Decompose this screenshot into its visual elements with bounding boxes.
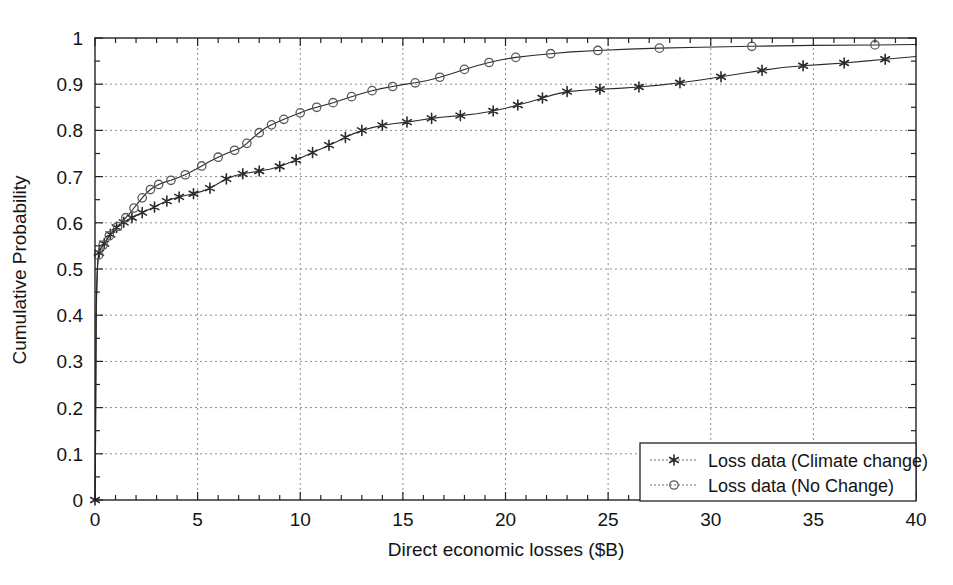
legend-item-label: Loss data (No Change)	[708, 476, 894, 496]
y-axis-tick-labels: 00.10.20.30.40.50.60.70.80.91	[57, 28, 84, 511]
x-tick-label: 5	[192, 509, 203, 530]
chart-legend: Loss data (Climate change)Loss data (No …	[640, 443, 928, 501]
x-tick-label: 20	[495, 509, 516, 530]
x-tick-label: 40	[905, 509, 926, 530]
y-tick-label: 0	[72, 490, 83, 511]
x-tick-label: 25	[598, 509, 619, 530]
marker-star	[222, 174, 231, 184]
data-series-layer	[91, 41, 916, 505]
y-tick-label: 0.9	[57, 74, 83, 95]
figure-container: 0510152025303540 00.10.20.30.40.50.60.70…	[0, 0, 953, 585]
marker-star	[308, 148, 317, 158]
x-tick-label: 15	[392, 509, 413, 530]
x-tick-label: 10	[290, 509, 311, 530]
y-tick-label: 0.2	[57, 398, 83, 419]
y-tick-label: 1	[72, 28, 83, 49]
y-tick-label: 0.7	[57, 167, 83, 188]
marker-star	[292, 155, 301, 165]
marker-star	[189, 189, 198, 199]
marker-star	[341, 132, 350, 142]
marker-star	[138, 208, 147, 218]
grid-lines	[95, 38, 916, 500]
series-line	[95, 44, 916, 500]
marker-star	[150, 202, 159, 212]
cdf-chart: 0510152025303540 00.10.20.30.40.50.60.70…	[0, 0, 953, 585]
y-tick-label: 0.1	[57, 444, 83, 465]
legend-item-label: Loss data (Climate change)	[708, 451, 928, 471]
x-axis-tick-labels: 0510152025303540	[90, 509, 927, 530]
marker-star	[275, 161, 284, 171]
x-axis-title: Direct economic losses ($B)	[388, 539, 625, 560]
y-axis-title: Cumulative Probability	[9, 175, 30, 365]
x-tick-label: 0	[90, 509, 101, 530]
marker-star	[163, 196, 172, 206]
x-tick-label: 30	[700, 509, 721, 530]
y-tick-label: 0.8	[57, 120, 83, 141]
marker-star	[206, 183, 215, 193]
marker-star	[325, 140, 334, 150]
y-tick-label: 0.5	[57, 259, 83, 280]
x-tick-label: 35	[803, 509, 824, 530]
marker-star	[538, 93, 547, 103]
y-tick-label: 0.3	[57, 351, 83, 372]
series-climate-change	[91, 54, 916, 505]
marker-star	[513, 100, 522, 110]
marker-star	[357, 125, 366, 135]
y-tick-label: 0.4	[57, 305, 84, 326]
marker-star	[175, 192, 184, 202]
y-tick-label: 0.6	[57, 213, 83, 234]
